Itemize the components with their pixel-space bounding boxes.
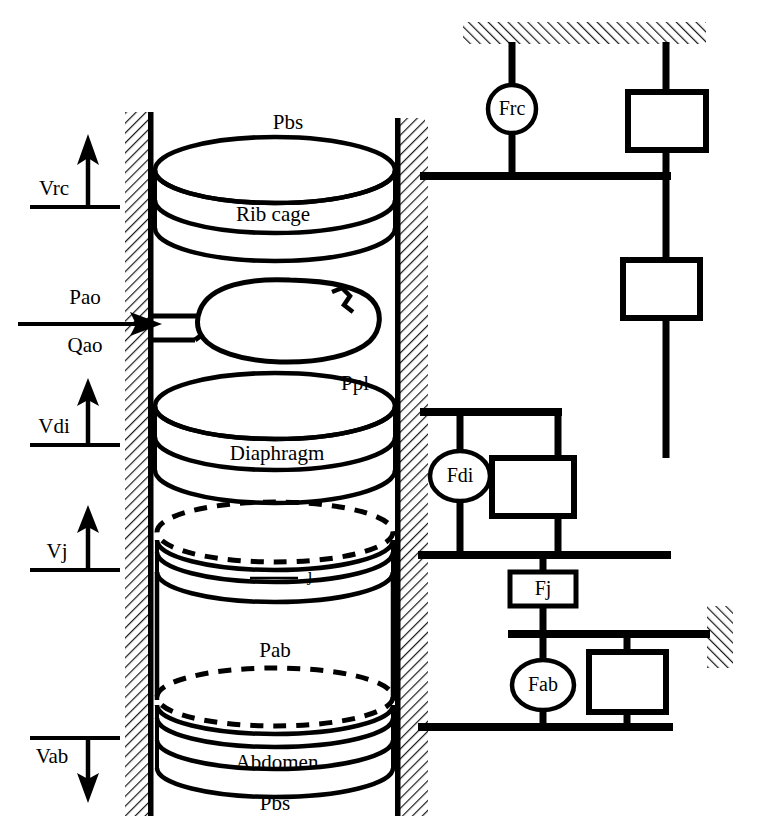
label-junction: j — [306, 565, 312, 585]
ground-left — [412, 122, 428, 816]
label-vrc: Vrc — [39, 176, 69, 200]
respiratory-analog-figure: Pbs Rib cage Pao Qao Ppl Diaphragm j Pab… — [0, 0, 759, 837]
element-ab-box — [589, 652, 666, 712]
label-vdi: Vdi — [38, 414, 70, 438]
lung-balloon — [153, 280, 379, 362]
label-abdomen: Abdomen — [236, 750, 319, 774]
label-ppl: Ppl — [341, 371, 369, 395]
label-pbs-top: Pbs — [273, 110, 303, 134]
volume-marker-vj — [30, 505, 120, 570]
label-diaphragm: Diaphragm — [230, 441, 324, 465]
label-fj: Fj — [535, 577, 552, 600]
label-vab: Vab — [36, 744, 69, 768]
label-qao: Qao — [68, 333, 103, 357]
label-frc: Frc — [499, 97, 526, 119]
abdomen-bottom — [157, 668, 393, 797]
element-di-box — [492, 458, 574, 516]
element-lung-box — [623, 260, 700, 318]
figure-canvas: Pbs Rib cage Pao Qao Ppl Diaphragm j Pab… — [0, 0, 759, 837]
label-rib-cage: Rib cage — [236, 202, 310, 226]
rib-cage-cylinder — [155, 137, 395, 261]
label-pab: Pab — [259, 638, 291, 662]
label-fdi: Fdi — [447, 464, 474, 486]
wall-left — [125, 112, 154, 816]
ground-right-mid — [707, 606, 733, 668]
label-vj: Vj — [47, 539, 68, 563]
junction-region — [157, 502, 393, 602]
element-rc-box — [628, 92, 706, 150]
label-pbs-bottom: Pbs — [260, 791, 290, 815]
ground-top — [463, 22, 706, 44]
label-pao: Pao — [69, 285, 101, 309]
label-fab: Fab — [528, 673, 558, 695]
